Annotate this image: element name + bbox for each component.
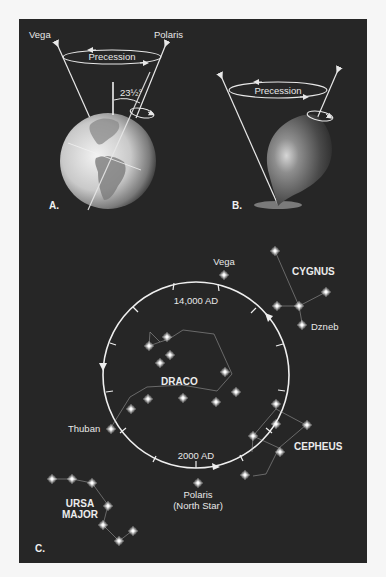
precession-circle: [103, 282, 289, 468]
star-ursa-major-4: [103, 501, 113, 511]
star-draco-3: [165, 350, 175, 360]
label-draco: DRACO: [161, 376, 198, 387]
star-cepheus-1: [271, 399, 281, 409]
star-ursa-major-2: [67, 474, 77, 484]
circle-arrow-left: [99, 363, 107, 371]
panel-letter-a: A.: [49, 200, 59, 211]
label-cepheus: CEPHEUS: [294, 441, 343, 452]
polaris-axis-line: [136, 44, 166, 118]
polaris-label-a: Polaris: [154, 29, 183, 40]
star-cepheus-5: [275, 447, 285, 457]
star-cygnus-4: [272, 301, 282, 311]
star-draco-6: [231, 387, 241, 397]
star-draco-1: [144, 341, 154, 351]
tilt-angle-label: 23½°: [120, 87, 142, 98]
star-draco-10: [126, 404, 136, 414]
label-ursa: URSA: [66, 498, 94, 509]
circle-arrow-bottom: [212, 463, 220, 470]
panel-c-sky-chart: 14,000 AD 2000 AD: [35, 246, 343, 554]
star-cepheus-6: [240, 470, 250, 480]
star-draco-2: [162, 332, 172, 342]
label-14000-ad: 14,000 AD: [174, 295, 219, 306]
star-ursa-major-3: [87, 478, 97, 488]
star-polaris: [193, 478, 203, 488]
star-draco-7: [211, 397, 221, 407]
star-cygnus-2: [294, 301, 304, 311]
star-ursa-major-7: [128, 526, 138, 536]
vega-label-a: Vega: [29, 29, 51, 40]
label-dzneb: Dzneb: [311, 321, 338, 332]
precession-label-b: Precession: [255, 85, 302, 96]
panel-letter-c: C.: [35, 543, 45, 554]
panel-b-spinning-top: Precession B.: [221, 70, 338, 211]
label-polaris: Polaris: [183, 489, 212, 500]
precession-label-a: Precession: [89, 51, 136, 62]
star-vega: [219, 270, 229, 280]
precession-diagram: Precession Vega Polaris 23½° A. Precessi…: [0, 0, 386, 577]
spinning-top-body: [267, 115, 332, 206]
label-cygnus: CYGNUS: [292, 266, 335, 277]
star-cygnus-3: [321, 287, 331, 297]
star-thuban: [106, 424, 116, 434]
label-north-star: (North Star): [173, 500, 223, 511]
star-draco-5: [220, 367, 230, 377]
star-draco-8: [178, 393, 188, 403]
label-major: MAJOR: [62, 509, 99, 520]
label-vega: Vega: [213, 256, 235, 267]
star-dzneb: [297, 320, 307, 330]
star-cygnus-1: [270, 246, 280, 256]
star-cepheus-3: [302, 420, 312, 430]
panel-letter-b: B.: [232, 200, 242, 211]
label-2000-ad: 2000 AD: [178, 450, 215, 461]
star-ursa-major-1: [47, 474, 57, 484]
star-draco-4: [155, 358, 165, 368]
star-cepheus-4: [248, 431, 258, 441]
star-draco-9: [143, 394, 153, 404]
label-thuban: Thuban: [68, 423, 100, 434]
panel-a-earth: Precession Vega Polaris 23½° A.: [29, 29, 183, 211]
vega-axis-line: [57, 44, 90, 118]
